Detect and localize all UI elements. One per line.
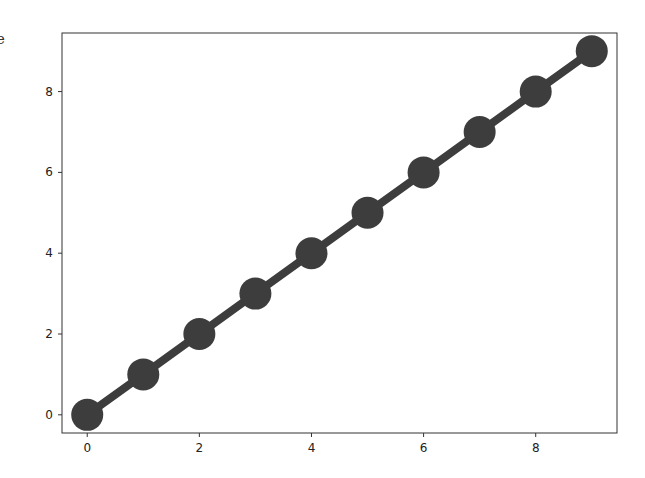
x-tick-label: 8 (532, 441, 540, 455)
data-point-marker (71, 399, 103, 431)
y-tick-label: 4 (45, 246, 53, 260)
line-chart: 02468 02468 (0, 0, 645, 478)
data-point-marker (295, 237, 327, 269)
x-tick-label: 2 (196, 441, 204, 455)
data-point-marker (408, 156, 440, 188)
data-point-marker (183, 318, 215, 350)
y-tick-label: 0 (45, 408, 53, 422)
data-point-marker (352, 197, 384, 229)
x-tick-label: 0 (83, 441, 91, 455)
x-tick-label: 4 (308, 441, 316, 455)
data-series (71, 35, 608, 431)
data-point-marker (127, 358, 159, 390)
y-tick-label: 8 (45, 85, 53, 99)
data-point-marker (576, 35, 608, 67)
data-point-marker (520, 76, 552, 108)
x-tick-label: 6 (420, 441, 428, 455)
y-axis: 02468 (45, 85, 62, 422)
x-axis: 02468 (83, 433, 539, 455)
data-point-marker (464, 116, 496, 148)
series-line (87, 51, 592, 415)
data-point-marker (239, 278, 271, 310)
y-tick-label: 2 (45, 327, 53, 341)
y-tick-label: 6 (45, 165, 53, 179)
